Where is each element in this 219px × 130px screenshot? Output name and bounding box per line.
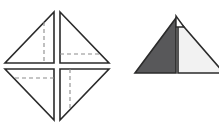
figure-canvas <box>0 0 219 130</box>
